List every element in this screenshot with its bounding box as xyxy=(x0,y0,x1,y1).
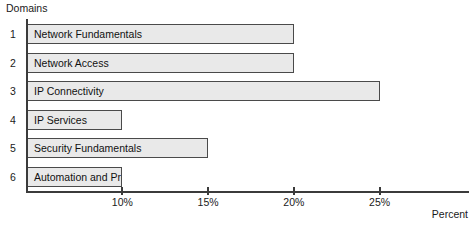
x-tick-mark xyxy=(379,187,381,195)
bar-chart: Domains 123456 Network FundamentalsNetwo… xyxy=(0,0,469,233)
category-index: 6 xyxy=(4,171,22,183)
footer-caption xyxy=(18,224,458,233)
bar: Network Fundamentals xyxy=(28,24,294,44)
category-index: 4 xyxy=(4,114,22,126)
bar: Network Access xyxy=(28,53,294,73)
bar-label: Network Access xyxy=(28,57,109,69)
category-index: 2 xyxy=(4,57,22,69)
x-axis-line xyxy=(26,191,469,193)
x-tick-label: 20% xyxy=(269,196,319,208)
x-tick-label: 15% xyxy=(183,196,233,208)
bar: IP Connectivity xyxy=(28,81,380,101)
x-axis-title: Percent xyxy=(432,208,468,220)
bar: Automation and Programmability xyxy=(28,167,122,187)
x-tick-label: 10% xyxy=(97,196,147,208)
bar: Security Fundamentals xyxy=(28,138,208,158)
y-axis-title: Domains xyxy=(6,2,47,14)
x-tick-mark xyxy=(121,187,123,195)
bar: IP Services xyxy=(28,110,122,130)
x-tick-mark xyxy=(207,187,209,195)
bar-label: IP Connectivity xyxy=(28,85,104,97)
x-tick-label: 25% xyxy=(355,196,405,208)
bar-label: Network Fundamentals xyxy=(28,28,142,40)
x-tick-mark xyxy=(293,187,295,195)
bar-label: Security Fundamentals xyxy=(28,142,141,154)
bar-label: IP Services xyxy=(28,114,87,126)
bar-label: Automation and Programmability xyxy=(28,171,122,183)
category-index: 1 xyxy=(4,28,22,40)
category-index: 3 xyxy=(4,85,22,97)
category-index: 5 xyxy=(4,142,22,154)
